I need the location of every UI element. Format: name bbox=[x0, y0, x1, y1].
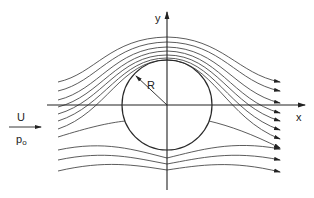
x-axis-label: x bbox=[296, 111, 302, 123]
streamline bbox=[58, 164, 280, 172]
flow-diagram: y x R U po bbox=[0, 0, 314, 198]
radius-label: R bbox=[147, 79, 155, 91]
streamline bbox=[58, 145, 280, 158]
velocity-label: U bbox=[17, 111, 25, 123]
streamline-stagnation bbox=[58, 121, 125, 137]
upper-streamlines bbox=[58, 37, 280, 148]
y-axis-label: y bbox=[155, 12, 161, 24]
pressure-subscript: o bbox=[22, 138, 27, 147]
pressure-label: po bbox=[16, 133, 27, 147]
streamline bbox=[58, 155, 280, 164]
